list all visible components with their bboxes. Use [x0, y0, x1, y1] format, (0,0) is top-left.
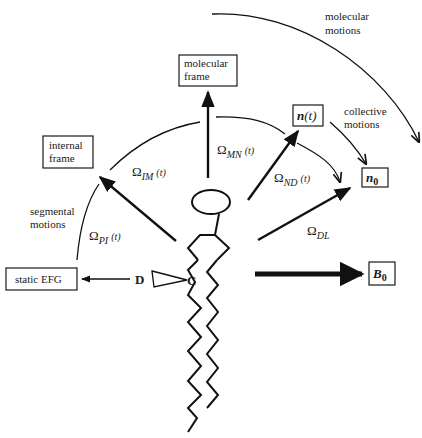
segmental-motions-label: segmental motions: [30, 205, 77, 230]
omega-im-label: ΩIM(t): [132, 164, 166, 182]
svg-text:static EFG: static EFG: [15, 273, 62, 285]
omega-dl-label: ΩDL: [307, 223, 330, 241]
static-efg-box: static EFG: [6, 268, 77, 290]
director-nt-box: n(t): [293, 105, 323, 126]
molecular-motions-label: molecular motions: [325, 10, 372, 36]
omega-mn-label: ΩMN(t): [217, 142, 255, 160]
director-n0-box: n0: [362, 168, 388, 187]
b0-field-box: B0: [369, 262, 395, 285]
internal-frame-box: internal frame: [43, 136, 93, 168]
frame-arc-pi: [77, 184, 99, 260]
lipid-glycerol-backbone: [188, 214, 229, 260]
deuterium-atom-label: D: [135, 272, 144, 287]
arrow-to-n0: [258, 188, 350, 240]
lipid-head-group: [192, 190, 230, 214]
lipid-chain-right: [207, 260, 218, 408]
c-d-bond-wedge: [152, 271, 187, 287]
arrow-to-director-nt: [248, 131, 298, 200]
molecular-frame-box: molecular frame: [179, 55, 237, 86]
svg-text:n(t): n(t): [297, 108, 317, 123]
frame-arc-mn: [216, 117, 285, 134]
collective-motions-label: collective motions: [344, 105, 390, 130]
omega-pi-label: ΩPI(t): [89, 228, 121, 246]
frame-arc-im: [110, 122, 200, 170]
lipid-frame-diagram: molecular motions molecular frame intern…: [0, 0, 422, 438]
omega-nd-label: ΩND(t): [274, 170, 311, 188]
